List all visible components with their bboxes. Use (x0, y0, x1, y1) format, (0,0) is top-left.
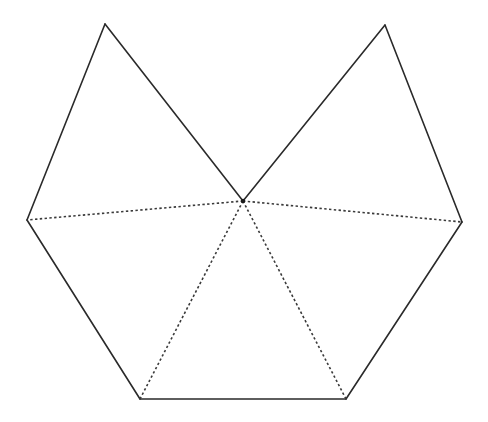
solid-edge-top-right-to-right (385, 25, 462, 222)
polygon-net-diagram (0, 0, 488, 422)
solid-edges-group (27, 24, 462, 399)
dashed-edge-center-to-bottom-left (140, 201, 243, 399)
solid-edge-right-to-bottom-right (346, 222, 462, 399)
solid-edge-top-left-to-center (105, 24, 243, 201)
center-vertex-dot (241, 199, 245, 203)
solid-edge-bottom-left-to-left (27, 220, 140, 399)
dashed-edge-center-to-right (243, 201, 462, 222)
dashed-edge-center-to-left (27, 201, 243, 220)
dashed-edges-group (27, 201, 462, 399)
solid-edge-top-left-to-left (27, 24, 105, 220)
dashed-edge-center-to-bottom-right (243, 201, 346, 399)
solid-edge-center-to-top-right (243, 25, 385, 201)
